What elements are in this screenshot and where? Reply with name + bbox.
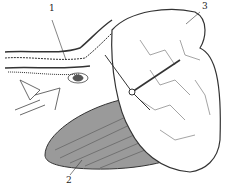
anatomical-illustration [0, 0, 226, 190]
hilum-point [129, 89, 135, 95]
upper-band [5, 20, 115, 75]
label-2: 2 [66, 176, 72, 185]
label-3: 3 [202, 2, 208, 11]
label-1: 1 [49, 4, 55, 13]
left-detail [15, 73, 88, 115]
